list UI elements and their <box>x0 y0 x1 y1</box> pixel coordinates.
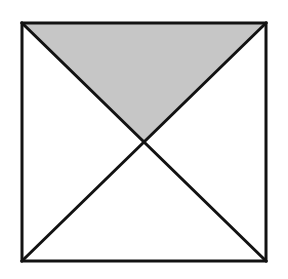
geometry-figure <box>0 0 288 279</box>
figure-canvas: A square outline containing two diagonal… <box>0 0 288 279</box>
